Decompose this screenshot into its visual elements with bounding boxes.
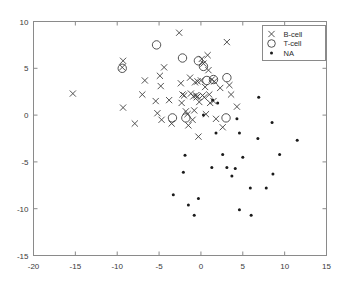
x-marker-icon: [217, 85, 223, 91]
dot-marker-icon: [221, 153, 224, 156]
x-tick-label: 15: [322, 262, 331, 271]
x-marker-icon: [158, 83, 164, 89]
series-b-cell: [70, 30, 240, 140]
circle-marker-icon: [194, 57, 202, 65]
legend-item-label: NA: [284, 49, 294, 58]
dot-marker-icon: [271, 121, 274, 124]
plot-canvas: -20-15-10-5051015 -15-10-50510 B-cellT-c…: [0, 0, 353, 287]
circle-marker-icon: [168, 114, 176, 122]
x-tick-label: 0: [199, 262, 204, 271]
legend-item-label: B-cell: [284, 30, 303, 39]
x-marker-icon: [224, 39, 230, 45]
dot-marker-icon: [230, 174, 233, 177]
x-marker-icon: [195, 134, 201, 140]
series-na: [172, 96, 299, 217]
y-tick-label: -5: [21, 158, 29, 167]
dot-marker-icon: [256, 137, 259, 140]
x-tick-label: -20: [28, 262, 40, 271]
dot-marker-icon: [278, 153, 281, 156]
dot-marker-icon: [216, 101, 219, 104]
dot-marker-icon: [238, 131, 241, 134]
dot-marker-icon: [235, 117, 238, 120]
x-marker-icon: [191, 107, 197, 113]
dot-marker-icon: [211, 99, 214, 102]
x-marker-icon: [179, 100, 185, 106]
circle-marker-icon: [152, 41, 160, 49]
dot-marker-icon: [270, 52, 273, 55]
dot-marker-icon: [271, 173, 274, 176]
x-marker-icon: [139, 91, 145, 97]
dot-marker-icon: [202, 114, 205, 117]
dot-marker-icon: [238, 208, 241, 211]
x-tick-label: -10: [111, 262, 123, 271]
x-marker-icon: [178, 80, 184, 86]
x-marker-icon: [205, 52, 211, 58]
legend: B-cellT-cellNA: [263, 26, 326, 61]
dot-marker-icon: [265, 187, 268, 190]
legend-item-label: T-cell: [284, 39, 302, 48]
y-tick-label: -10: [17, 205, 29, 214]
dot-marker-icon: [193, 214, 196, 217]
dot-marker-icon: [214, 131, 217, 134]
x-marker-icon: [176, 30, 182, 36]
x-marker-icon: [226, 82, 232, 88]
x-marker-icon: [228, 91, 234, 97]
y-tick-label: 0: [24, 111, 29, 120]
dot-marker-icon: [234, 167, 237, 170]
x-marker-icon: [205, 67, 211, 73]
x-marker-icon: [161, 64, 167, 70]
dot-marker-icon: [182, 171, 185, 174]
dot-marker-icon: [250, 214, 253, 217]
x-marker-icon: [213, 116, 219, 122]
x-marker-icon: [154, 110, 160, 116]
x-marker-icon: [120, 58, 126, 64]
circle-marker-icon: [118, 64, 126, 72]
dot-marker-icon: [225, 166, 228, 169]
x-tick-label: 10: [280, 262, 289, 271]
dot-marker-icon: [257, 96, 260, 99]
dot-marker-icon: [210, 166, 213, 169]
x-marker-icon: [185, 122, 191, 128]
dot-marker-icon: [197, 197, 200, 200]
x-marker-icon: [166, 97, 172, 103]
x-marker-icon: [142, 77, 148, 83]
circle-marker-icon: [222, 114, 230, 122]
dot-marker-icon: [296, 139, 299, 142]
dot-marker-icon: [241, 156, 244, 159]
x-marker-icon: [158, 117, 164, 123]
y-tick-label: -15: [17, 252, 29, 261]
x-marker-icon: [120, 105, 126, 111]
x-tick-label: 5: [241, 262, 246, 271]
x-tick-label: -15: [70, 262, 82, 271]
x-marker-icon: [70, 90, 76, 96]
y-tick-label: 10: [20, 18, 29, 27]
circle-marker-icon: [223, 73, 231, 81]
scatter-plot-figure: -20-15-10-5051015 -15-10-50510 B-cellT-c…: [0, 0, 353, 287]
dot-marker-icon: [187, 203, 190, 206]
dot-marker-icon: [172, 193, 175, 196]
x-marker-icon: [132, 120, 138, 126]
dot-marker-icon: [249, 187, 252, 190]
circle-marker-icon: [182, 114, 190, 122]
x-marker-icon: [234, 104, 240, 110]
circle-marker-icon: [178, 54, 186, 62]
x-marker-icon: [220, 124, 226, 130]
x-tick-label: -5: [156, 262, 164, 271]
x-marker-icon: [157, 73, 163, 79]
x-marker-icon: [153, 98, 159, 104]
y-tick-label: 5: [24, 64, 29, 73]
dot-marker-icon: [184, 154, 187, 157]
